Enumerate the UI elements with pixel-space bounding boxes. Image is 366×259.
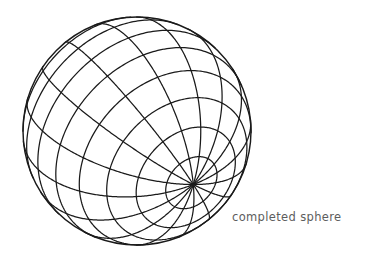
sphere-diagram: completed sphere [0, 0, 366, 259]
caption-label: completed sphere [232, 210, 341, 224]
